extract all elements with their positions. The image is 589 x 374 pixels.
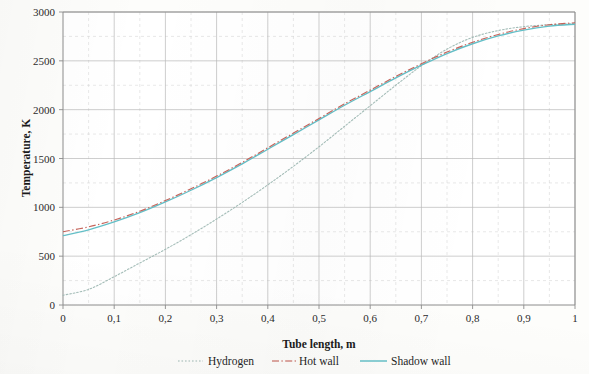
x-tick-label: 0,5 — [312, 312, 326, 324]
y-tick-label: 1000 — [33, 201, 56, 213]
y-tick-label: 500 — [39, 250, 56, 262]
x-tick-label: 0,6 — [363, 312, 377, 324]
legend-item-hydrogen: Hydrogen — [178, 355, 254, 368]
legend-item-shadow-wall: Shadow wall — [360, 355, 451, 367]
x-tick-label: 1 — [572, 312, 578, 324]
temperature-vs-tube-length-chart: 00,10,20,30,40,50,60,70,80,91 0500100015… — [0, 0, 589, 374]
x-tick-label: 0,4 — [261, 312, 275, 324]
x-tick-label: 0,8 — [466, 312, 480, 324]
y-tick-label: 2500 — [33, 55, 56, 67]
legend-label-shadow-wall: Shadow wall — [391, 355, 451, 367]
y-tick-label: 2000 — [33, 104, 56, 116]
y-axis-ticks — [59, 12, 63, 305]
legend-label-hot-wall: Hot wall — [299, 355, 339, 367]
x-tick-label: 0,2 — [159, 312, 173, 324]
y-tick-label: 3000 — [33, 6, 56, 18]
legend-item-hot-wall: Hot wall — [272, 355, 339, 367]
x-axis-title: Tube length, m — [282, 338, 356, 351]
x-axis-ticks — [63, 305, 575, 309]
x-axis-tick-labels: 00,10,20,30,40,50,60,70,80,91 — [60, 312, 578, 324]
x-tick-label: 0,1 — [107, 312, 121, 324]
x-tick-label: 0,7 — [415, 312, 429, 324]
chart-figure: 00,10,20,30,40,50,60,70,80,91 0500100015… — [0, 0, 589, 374]
x-tick-label: 0 — [60, 312, 66, 324]
x-tick-label: 0,9 — [517, 312, 531, 324]
y-axis-tick-labels: 050010001500200025003000 — [33, 6, 56, 311]
legend-label-hydrogen: Hydrogen — [208, 355, 254, 368]
chart-legend: Hydrogen Hot wall Shadow wall — [178, 355, 451, 368]
y-axis-title: Temperature, K — [20, 119, 33, 198]
x-tick-label: 0,3 — [210, 312, 224, 324]
y-tick-label: 1500 — [33, 153, 56, 165]
y-tick-label: 0 — [50, 299, 56, 311]
